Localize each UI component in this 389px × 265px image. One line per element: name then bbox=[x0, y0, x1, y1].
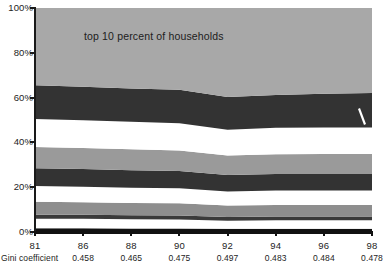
x-axis-label-98: 98 bbox=[352, 240, 389, 251]
x-axis-line bbox=[34, 231, 372, 234]
gini-value-88: 0.465 bbox=[109, 252, 153, 264]
x-axis-tick bbox=[323, 231, 325, 236]
area-band-decile-10-top bbox=[35, 8, 372, 97]
gini-row: Gini coefficient 0.4580.4650.4750.4970.4… bbox=[0, 252, 389, 264]
gini-value-96: 0.484 bbox=[302, 252, 346, 264]
y-axis-tick bbox=[30, 141, 35, 143]
y-axis-tick bbox=[30, 186, 35, 188]
y-axis-label-100: 100% bbox=[1, 3, 33, 13]
x-axis-label-86: 86 bbox=[63, 240, 103, 251]
x-axis-tick bbox=[82, 231, 84, 236]
y-axis-line bbox=[34, 7, 36, 233]
x-axis-tick bbox=[130, 231, 132, 236]
y-axis-label-60: 60% bbox=[1, 93, 33, 103]
x-axis-label-96: 96 bbox=[304, 240, 344, 251]
y-axis-tick bbox=[30, 97, 35, 99]
x-axis-tick bbox=[275, 231, 277, 236]
x-axis-tick bbox=[178, 231, 180, 236]
x-axis-label-81: 81 bbox=[15, 240, 55, 251]
gini-value-92: 0.497 bbox=[206, 252, 250, 264]
gini-caption-label: Gini coefficient bbox=[1, 252, 58, 264]
x-axis-tick bbox=[371, 231, 373, 236]
y-axis-label-80: 80% bbox=[1, 48, 33, 58]
x-axis-labels: 8186889092949698 bbox=[0, 240, 389, 251]
x-axis-label-92: 92 bbox=[208, 240, 248, 251]
y-axis-tick bbox=[30, 52, 35, 54]
y-axis-labels: 100%80%60%40%20%0% bbox=[0, 0, 33, 240]
gini-value-86: 0.458 bbox=[61, 252, 105, 264]
y-axis-label-20: 20% bbox=[1, 182, 33, 192]
x-axis-tick bbox=[34, 231, 36, 236]
gini-value-90: 0.475 bbox=[157, 252, 201, 264]
x-axis-label-94: 94 bbox=[256, 240, 296, 251]
y-axis-tick bbox=[30, 7, 35, 9]
x-axis-label-90: 90 bbox=[159, 240, 199, 251]
x-axis-label-88: 88 bbox=[111, 240, 151, 251]
y-axis-label-40: 40% bbox=[1, 137, 33, 147]
gini-value-98: 0.478 bbox=[350, 252, 389, 264]
x-axis-tick bbox=[227, 231, 229, 236]
annotation-top-decile: top 10 percent of households bbox=[84, 30, 224, 42]
gini-value-94: 0.483 bbox=[254, 252, 298, 264]
chart-root: top 10 percent of households 100%80%60%4… bbox=[0, 0, 389, 265]
y-axis-label-0: 0% bbox=[1, 227, 33, 237]
